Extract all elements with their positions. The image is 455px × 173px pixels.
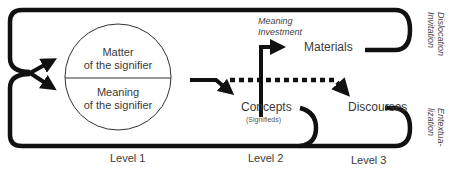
discourses-node: Discourses xyxy=(348,100,407,114)
signifier-circle xyxy=(65,24,171,130)
matter-of-signifier-label: Matter of the signifier xyxy=(72,46,164,72)
entextualization-label: Entextua- lization xyxy=(426,108,446,147)
level-3-label: Level 3 xyxy=(351,154,386,166)
meaning-label-line2: of the signifier xyxy=(72,99,164,112)
circle-to-concepts-arrow xyxy=(190,80,228,90)
concepts-subtitle: (Signifieds) xyxy=(246,116,281,123)
meaning-of-signifier-label: Meaning of the signifier xyxy=(72,86,164,112)
meaning-investment-line2: Investment xyxy=(258,27,302,38)
dotted-arrow-to-discourses xyxy=(230,80,344,90)
concepts-node: Concepts xyxy=(241,100,292,114)
matter-label-line1: Matter xyxy=(72,46,164,59)
materials-node: Materials xyxy=(304,40,353,54)
fork-arrow-down xyxy=(30,73,50,86)
meaning-investment-label: Meaning Investment xyxy=(258,16,302,38)
concepts-hook-line xyxy=(300,108,316,146)
level-1-label: Level 1 xyxy=(110,152,145,164)
matter-label-line2: of the signifier xyxy=(72,59,164,72)
dislocation-line1: Dislocation xyxy=(436,12,446,56)
fork-arrow-up xyxy=(30,62,50,73)
entextualization-line2: lization xyxy=(426,108,436,136)
dislocation-invitation-label: Dislocation Invitation xyxy=(426,12,446,56)
meaning-investment-line1: Meaning xyxy=(258,16,302,27)
entextualization-line1: Entextua- xyxy=(436,108,446,147)
meaning-label-line1: Meaning xyxy=(72,86,164,99)
level-2-label: Level 2 xyxy=(248,152,283,164)
dislocation-line2: Invitation xyxy=(426,12,436,48)
diagram-arrows xyxy=(0,0,455,173)
